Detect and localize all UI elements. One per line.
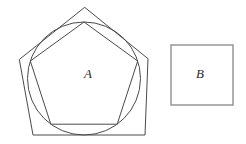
geometry-diagram: A B [0, 0, 246, 144]
shape-b-label: B [196, 66, 204, 81]
diagram-svg: A B [0, 0, 246, 144]
shape-a-label: A [83, 66, 92, 81]
